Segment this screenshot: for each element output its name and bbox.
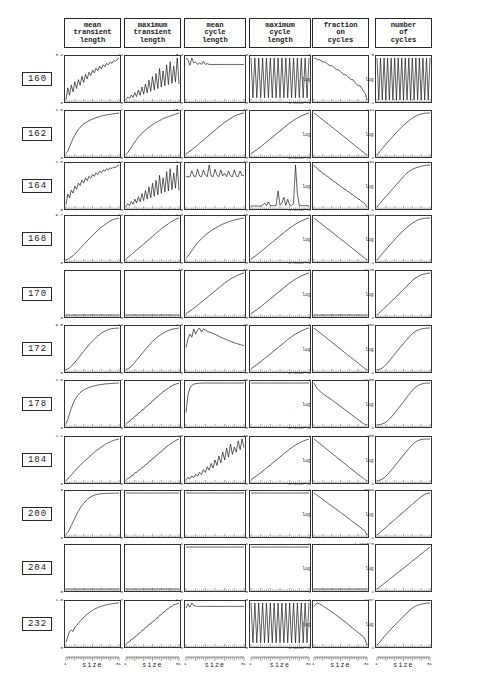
plot-184-mean_transient_length: 2.10 <box>64 436 121 484</box>
plot-172-number_of_cycles: 404log1 <box>375 325 432 373</box>
y-axis-max-label: 15 <box>178 434 183 439</box>
y-axis-max-label: 1 <box>120 488 123 493</box>
y-axis-max-label: 1.1 <box>175 598 183 603</box>
y-axis-max-label: 2.3 <box>175 323 183 328</box>
row-label-200: 200 <box>22 507 52 521</box>
y-axis-max-label: 2 <box>180 378 183 383</box>
plot-series <box>184 544 246 592</box>
y-axis-max-label: 144 <box>366 213 374 218</box>
y-axis-log-label: log <box>365 402 373 407</box>
y-axis-max-label: 16 <box>243 108 248 113</box>
plot-series <box>124 600 181 648</box>
plot-series <box>64 162 121 210</box>
plot-series <box>312 270 369 318</box>
plot-series <box>64 110 121 158</box>
plot-series <box>312 436 369 484</box>
y-axis-min-label: 0 <box>60 101 63 106</box>
row-label-162: 162 <box>22 127 52 141</box>
plot-200-fraction_on_cycles: 1log1 <box>312 490 369 538</box>
y-axis-max-label: 9.7 <box>55 213 63 218</box>
column-header-line: cycles <box>328 37 353 44</box>
plot-series <box>312 110 369 158</box>
column-header-line: cycles <box>391 37 416 44</box>
column-header-mean_transient_length: meantransientlength <box>64 18 121 48</box>
small-multiples-figure: meantransientlengthmaximumtransientlengt… <box>0 0 485 693</box>
plot-series <box>64 270 121 318</box>
plot-168-number_of_cycles: 144log1 <box>375 215 432 263</box>
y-axis-max-label: 2.1 <box>55 434 63 439</box>
y-axis-max-label: 1 <box>308 378 311 383</box>
row-label-164: 164 <box>22 179 52 193</box>
plot-series <box>124 490 181 538</box>
plot-170-number_of_cycles: 4118log1 <box>375 270 432 318</box>
y-axis-min-label: 0 <box>120 426 123 431</box>
row-label-178: 178 <box>22 397 52 411</box>
y-axis-max-label: 1 <box>308 268 311 273</box>
x-axis-label: size <box>124 662 181 669</box>
plot-232-fraction_on_cycles: 1log1.5x10^-3 <box>312 600 369 648</box>
plot-series <box>375 270 432 318</box>
plot-200-maximum_transient_length: 10 <box>124 490 181 538</box>
plot-series <box>375 325 432 373</box>
y-axis-min-label: 0 <box>245 646 248 651</box>
y-axis-max-label: 3.4 <box>175 53 183 58</box>
x-axis-label: size <box>184 662 246 669</box>
y-axis-min-label: 0 <box>180 426 183 431</box>
y-axis-max-label: 4118 <box>364 268 374 273</box>
y-axis-log-label: log <box>302 347 310 352</box>
y-axis-min-label: 0 <box>60 261 63 266</box>
plot-204-number_of_cycles: 2.1x10^6log1 <box>375 544 432 592</box>
y-axis-min-label: 0 <box>60 646 63 651</box>
y-axis-min-label: 6.1x10^-4 <box>288 482 311 487</box>
y-axis-log-label: log <box>365 237 373 242</box>
y-axis-min-label: 1 <box>371 482 374 487</box>
plot-series <box>375 544 432 592</box>
plot-series <box>375 380 432 428</box>
plot-232-mean_cycle_length: 1.10 <box>184 600 246 648</box>
y-axis-min-label: 0 <box>60 426 63 431</box>
plot-178-mean_transient_length: 1.60 <box>64 380 121 428</box>
plot-164-mean_cycle_length: 1.10 <box>184 162 246 210</box>
y-axis-max-label: 16 <box>243 434 248 439</box>
y-axis-max-label: 7 <box>120 378 123 383</box>
y-axis-log-label: log <box>302 77 310 82</box>
plot-series <box>124 270 181 318</box>
plot-series <box>184 55 246 103</box>
plot-162-number_of_cycles: 144log1 <box>375 110 432 158</box>
plot-series <box>184 215 246 263</box>
y-axis-min-label: 0 <box>245 101 248 106</box>
y-axis-min-label: 0 <box>180 482 183 487</box>
column-header-maximum_transient_length: maximumtransientlength <box>124 18 181 48</box>
plot-184-mean_cycle_length: 150 <box>184 436 246 484</box>
y-axis-max-label: 1 <box>180 542 183 547</box>
row-label-168: 168 <box>22 232 52 246</box>
y-axis-min-label: 0 <box>180 316 183 321</box>
x-axis-label: size <box>64 662 121 669</box>
y-axis-max-label: 1.1 <box>175 160 183 165</box>
y-axis-max-label: 1 <box>308 108 311 113</box>
plot-series <box>184 270 246 318</box>
y-axis-log-label: log <box>302 622 310 627</box>
y-axis-min-label: 1 <box>371 536 374 541</box>
x-axis-maximum_transient_length: 131size <box>124 654 181 672</box>
y-axis-max-label: 16 <box>178 268 183 273</box>
plot-series <box>64 436 121 484</box>
y-axis-max-label: 2207 <box>364 598 374 603</box>
row-label-184: 184 <box>22 453 52 467</box>
y-axis-max-label: 2.1x10^6 <box>354 542 374 547</box>
plot-series <box>312 544 369 592</box>
y-axis-log-label: log <box>365 77 373 82</box>
y-axis-min-label: 1 <box>371 426 374 431</box>
plot-series <box>312 162 369 210</box>
y-axis-min-label: 6.1x10^-4 <box>288 371 311 376</box>
y-axis-max-label: 3.4 <box>55 53 63 58</box>
plot-178-number_of_cycles: 1105log1 <box>375 380 432 428</box>
y-axis-log-label: log <box>365 347 373 352</box>
plot-series <box>312 600 369 648</box>
plot-series <box>124 380 181 428</box>
plot-160-maximum_transient_length: 140 <box>124 55 181 103</box>
plot-series <box>184 490 246 538</box>
plot-162-mean_cycle_length: 13.70 <box>184 110 246 158</box>
plot-series <box>124 215 181 263</box>
plot-204-mean_cycle_length: 10 <box>184 544 246 592</box>
